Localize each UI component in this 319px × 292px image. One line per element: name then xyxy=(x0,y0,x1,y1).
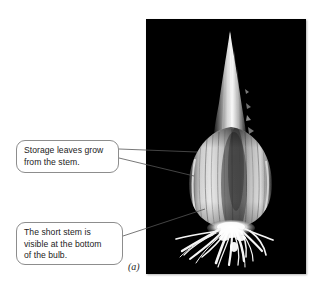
callout-short-stem[interactable]: The short stem is visible at the bottom … xyxy=(16,222,123,265)
callout-short-stem-line-3: of the bulb. xyxy=(24,250,116,262)
callout-storage-leaves-line-1: Storage leaves grow xyxy=(24,145,112,157)
callout-short-stem-line-1: The short stem is xyxy=(24,227,116,239)
bulb-photograph-artwork xyxy=(146,19,306,274)
callout-storage-leaves[interactable]: Storage leaves grow from the stem. xyxy=(16,140,119,173)
bulb-photograph xyxy=(146,19,306,274)
callout-short-stem-line-2: visible at the bottom xyxy=(24,239,116,251)
callout-storage-leaves-line-2: from the stem. xyxy=(24,157,112,169)
figure-root: Storage leaves grow from the stem. The s… xyxy=(0,0,319,292)
panel-label: (a) xyxy=(128,261,140,272)
